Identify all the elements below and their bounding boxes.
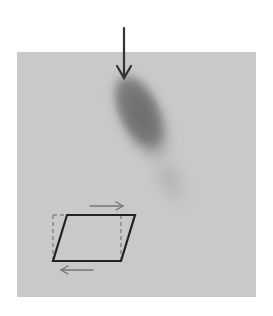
arrow-left-icon bbox=[61, 266, 93, 274]
arrow-right-icon bbox=[90, 202, 123, 210]
sheared-parallelogram bbox=[53, 215, 135, 261]
shear-diagram bbox=[53, 202, 135, 274]
figure bbox=[0, 0, 273, 316]
down-arrow-icon bbox=[117, 28, 131, 78]
figure-graphics bbox=[0, 0, 273, 316]
dark-blob bbox=[97, 62, 204, 224]
original-square-dashed bbox=[53, 215, 121, 261]
